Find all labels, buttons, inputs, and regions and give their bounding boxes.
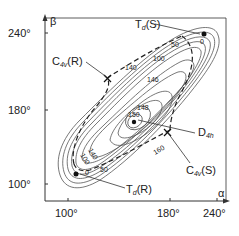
contour-label-150: 150	[128, 111, 140, 118]
x-tick-180: 180°	[157, 207, 180, 219]
x-tick-240: 240°	[203, 207, 226, 219]
d4h-maximum	[132, 120, 136, 124]
y-tick-180: 180°	[8, 104, 31, 116]
y-axis-arrow-icon	[43, 14, 48, 21]
contour-diagram: 240° 180° 100° 100° 180° 240° β α	[0, 0, 239, 236]
contour-label-100-top: 100	[153, 55, 165, 62]
x-tick-100: 100°	[55, 207, 78, 219]
c4v-s-cross-icon	[164, 129, 171, 136]
x-axis-arrow-icon	[223, 199, 230, 204]
contour-label-50-top: 50	[171, 41, 179, 48]
contour-label-140-top: 140	[125, 64, 137, 71]
label-d4h: D4h	[198, 126, 214, 139]
contour-label-50-bottom: 50	[100, 166, 108, 173]
y-tick-100: 100°	[8, 178, 31, 190]
label-c4v-r: C4v(R)	[52, 55, 83, 68]
contour-label-146: 146	[147, 76, 159, 83]
y-axis-label: β	[50, 15, 56, 27]
td-r-minimum	[74, 172, 79, 177]
label-c4v-s: C4v(S)	[186, 164, 216, 177]
x-axis-label: α	[218, 187, 225, 199]
contour-label-160: 160	[152, 144, 166, 156]
contour-label-0-top: 0	[200, 38, 204, 45]
label-td-s: Td(S)	[135, 18, 160, 31]
y-tick-240: 240°	[8, 27, 31, 39]
label-td-r: Td(R)	[126, 183, 152, 196]
contour-label-0-bottom: 0	[85, 169, 89, 176]
td-s-minimum	[202, 32, 207, 37]
contour-label-148: 148	[137, 104, 149, 111]
